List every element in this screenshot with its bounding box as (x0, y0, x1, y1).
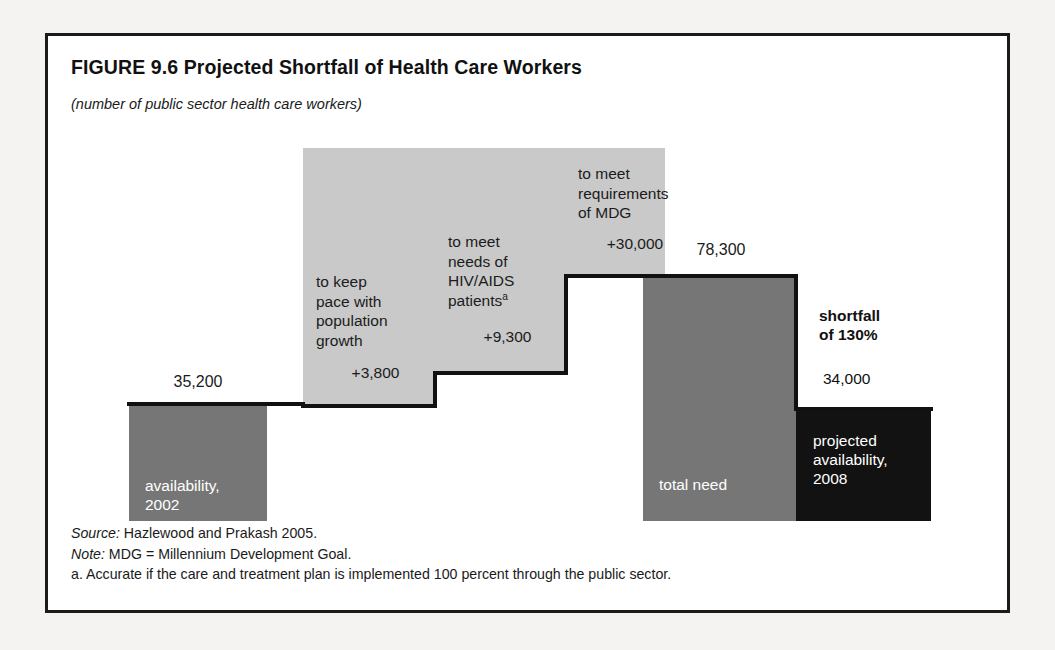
note-source-text: Hazlewood and Prakash 2005. (120, 525, 317, 541)
segment-text-growth: to keep pace with population growth (316, 272, 436, 350)
footnote-marker-a: a (502, 290, 508, 301)
value-label-total: 78,300 (656, 241, 786, 259)
note-label: Note: (71, 546, 105, 562)
shortfall-line-2: of 130% (819, 325, 979, 344)
figure-notes: Source: Hazlewood and Prakash 2005. Note… (71, 523, 671, 585)
shortfall-line-1: shortfall (819, 306, 979, 325)
segment-value-growth: +3,800 (313, 364, 438, 382)
segment-text-mdg: to meet requirements of MDG (578, 164, 713, 223)
note-footnote-a: a. Accurate if the care and treatment pl… (71, 564, 671, 585)
segment-value-hiv: +9,300 (445, 328, 570, 346)
note-source-label: Source: (71, 525, 120, 541)
page-root: FIGURE 9.6 Projected Shortfall of Health… (0, 0, 1055, 650)
note-text: MDG = Millennium Development Goal. (105, 546, 351, 562)
note-source: Source: Hazlewood and Prakash 2005. (71, 523, 671, 544)
value-label-start: 35,200 (133, 373, 263, 391)
shortfall-callout: shortfall of 130% (819, 306, 979, 345)
figure-frame: FIGURE 9.6 Projected Shortfall of Health… (45, 33, 1010, 613)
note-mdg: Note: MDG = Millennium Development Goal. (71, 544, 671, 565)
segment-text-hiv-line4: patientsa (448, 291, 568, 311)
segment-text-hiv: to meet needs of HIV/AIDS patientsa (448, 232, 568, 310)
shortfall-value: 34,000 (823, 369, 973, 388)
